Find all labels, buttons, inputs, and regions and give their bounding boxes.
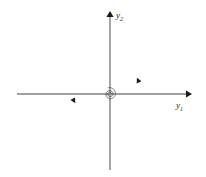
flow-arrow-left: [70, 97, 75, 103]
y2-axis-label: y2: [115, 10, 123, 22]
flow-arrow-right: [137, 78, 142, 84]
spiral-trajectory: [106, 88, 115, 99]
y1-axis: y1: [17, 90, 192, 111]
phase-portrait-plot: y1 y2: [0, 0, 206, 177]
y2-axis-arrowhead: [106, 11, 113, 17]
y1-axis-arrowhead: [186, 90, 192, 97]
y1-axis-label: y1: [175, 100, 183, 112]
phase-portrait-figure: y1 y2: [0, 0, 206, 177]
